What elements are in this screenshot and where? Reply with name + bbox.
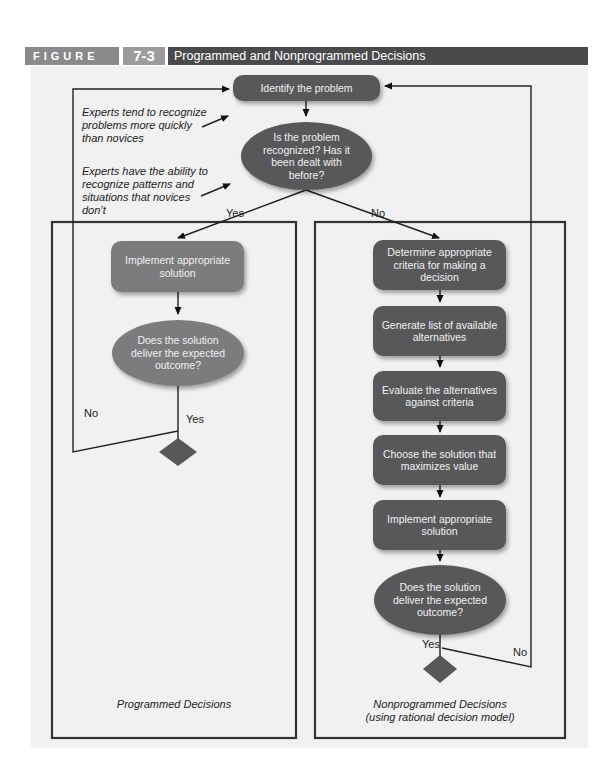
programmed-caption: Programmed Decisions xyxy=(52,698,296,711)
choose-solution-node: Choose the solution that maximizes value xyxy=(373,435,506,485)
nonprogrammed-end-diamond xyxy=(423,655,457,683)
programmed-outcome-decision: Does the solution deliver the expected o… xyxy=(112,320,244,386)
identify-problem-node: Identify the problem xyxy=(233,75,380,101)
top-yes-label: Yes xyxy=(226,207,244,219)
programmed-no-label: No xyxy=(84,407,98,419)
nonprogrammed-caption-line2: (using rational decision model) xyxy=(315,711,565,724)
top-no-label: No xyxy=(371,207,385,219)
programmed-yes-label: Yes xyxy=(186,413,204,425)
determine-criteria-node: Determine appropriate criteria for makin… xyxy=(373,240,506,290)
evaluate-alternatives-node: Evaluate the alternatives against criter… xyxy=(373,371,506,421)
nonprogrammed-caption: Nonprogrammed Decisions (using rational … xyxy=(315,698,565,724)
generate-alternatives-node: Generate list of available alternatives xyxy=(373,306,506,356)
implement-solution-nonprogrammed-node: Implement appropriate solution xyxy=(373,500,506,550)
nonprogrammed-caption-line1: Nonprogrammed Decisions xyxy=(315,698,565,711)
note-recognize-patterns: Experts have the ability to recognize pa… xyxy=(82,165,212,217)
nonprogrammed-no-label: No xyxy=(513,646,527,658)
programmed-end-diamond xyxy=(159,438,197,466)
nonprogrammed-outcome-decision: Does the solution deliver the expected o… xyxy=(374,565,506,635)
implement-solution-node: Implement appropriate solution xyxy=(111,241,244,292)
problem-recognized-decision: Is the problem recognized? Has it been d… xyxy=(241,122,372,190)
nonprogrammed-yes-label: Yes xyxy=(422,638,440,650)
programmed-panel-border xyxy=(52,222,296,738)
note-recognize-quickly: Experts tend to recognize problems more … xyxy=(82,106,212,145)
